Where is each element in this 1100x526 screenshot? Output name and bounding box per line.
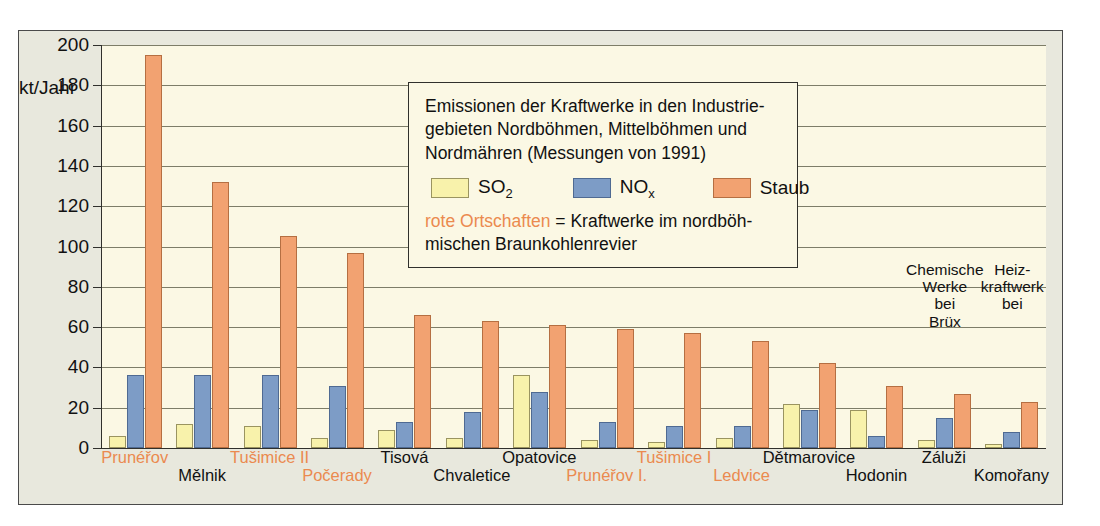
bar-nox — [329, 386, 346, 448]
bar-group — [985, 45, 1039, 448]
bar-nox — [396, 422, 413, 448]
bar-nox — [194, 375, 211, 448]
bar-staub — [145, 55, 162, 448]
bar-so2 — [581, 440, 598, 448]
legend-title-line-2: gebieten Nordböhmen, Mittelböhmen und — [425, 118, 783, 141]
y-tick — [93, 327, 102, 328]
x-axis-label: Tisová — [380, 448, 428, 467]
x-axis-label: Počerady — [302, 466, 372, 485]
x-axis-label: Komořany — [974, 466, 1049, 485]
bar-staub — [482, 321, 499, 448]
legend-title-line-1: Emissionen der Kraftwerke in den Industr… — [425, 95, 783, 118]
legend-note-highlight: rote Ortschaften — [425, 211, 550, 231]
legend-key-so2: SO2 — [431, 176, 513, 201]
chart-figure: kt/Jahr 020406080100120140160180200 Chem… — [18, 30, 1063, 505]
bar-staub — [684, 333, 701, 448]
bar-so2 — [850, 410, 867, 448]
y-tick-label: 140 — [57, 155, 89, 177]
bar-staub — [617, 329, 634, 448]
bar-so2 — [446, 438, 463, 448]
y-tick-label: 180 — [57, 74, 89, 96]
bar-so2 — [109, 436, 126, 448]
y-tick — [93, 408, 102, 409]
y-tick-label: 20 — [68, 397, 89, 419]
y-tick — [93, 287, 102, 288]
bar-nox — [801, 410, 818, 448]
bar-group — [109, 45, 163, 448]
x-axis-label: Hodonin — [846, 466, 907, 485]
legend-title: Emissionen der Kraftwerke in den Industr… — [425, 95, 783, 165]
bar-staub — [1021, 402, 1038, 448]
bar-staub — [752, 341, 769, 448]
bar-nox — [531, 392, 548, 448]
y-tick — [93, 247, 102, 248]
legend-key-staub: Staub — [713, 177, 810, 199]
bar-so2 — [513, 375, 530, 448]
y-tick — [93, 45, 102, 46]
bar-nox — [936, 418, 953, 448]
y-tick-label: 100 — [57, 236, 89, 258]
legend-label-nox: NOx — [620, 176, 655, 201]
bar-nox — [127, 375, 144, 448]
legend-swatch-nox — [573, 178, 611, 198]
y-tick-label: 60 — [68, 316, 89, 338]
bar-nox — [666, 426, 683, 448]
x-axis-label: Prunéřov I. — [566, 466, 647, 485]
bar-nox — [262, 375, 279, 448]
x-axis-label: Mělnik — [178, 466, 226, 485]
legend-label-so2: SO2 — [478, 176, 513, 201]
chart-annotation: Heiz- kraftwerk bei — [981, 261, 1044, 313]
bar-group — [311, 45, 365, 448]
x-axis-label: Ledvice — [713, 466, 770, 485]
chart-annotation: Chemische Werke bei Brüx — [906, 261, 984, 330]
bar-so2 — [378, 430, 395, 448]
legend-swatch-staub — [713, 178, 751, 198]
x-axis-label: Prunéřov — [101, 448, 168, 467]
bar-group — [918, 45, 972, 448]
bar-nox — [868, 436, 885, 448]
legend-label-staub: Staub — [760, 177, 810, 199]
bar-so2 — [244, 426, 261, 448]
legend-note-rest: = Kraftwerke im nordböh- — [550, 211, 752, 231]
legend-swatch-so2 — [431, 178, 469, 198]
bar-so2 — [918, 440, 935, 448]
bar-nox — [599, 422, 616, 448]
y-tick — [93, 166, 102, 167]
bar-staub — [280, 236, 297, 448]
x-axis-labels: PrunéřovMělnikTušimice IIPočeradyTisováC… — [101, 449, 1046, 485]
y-tick-label: 80 — [68, 276, 89, 298]
bar-nox — [1003, 432, 1020, 448]
bar-staub — [414, 315, 431, 448]
legend-key-nox: NOx — [573, 176, 655, 201]
y-tick-label: 120 — [57, 195, 89, 217]
y-tick — [93, 367, 102, 368]
y-tick-label: 0 — [78, 437, 89, 459]
legend-note-line-2: mischen Braunkohlenrevier — [425, 233, 783, 256]
bar-nox — [734, 426, 751, 448]
x-axis-label: Opatovice — [502, 448, 576, 467]
y-tick-label: 40 — [68, 356, 89, 378]
x-axis-label: Dětmarovice — [763, 448, 856, 467]
y-tick-label: 200 — [57, 34, 89, 56]
bar-group — [244, 45, 298, 448]
legend-box: Emissionen der Kraftwerke in den Industr… — [408, 82, 798, 268]
bar-so2 — [176, 424, 193, 448]
bar-staub — [954, 394, 971, 448]
x-axis-label: Záluži — [922, 448, 966, 467]
bar-so2 — [716, 438, 733, 448]
bar-staub — [886, 386, 903, 448]
legend-title-line-3: Nordmähren (Messungen von 1991) — [425, 142, 783, 165]
bar-staub — [549, 325, 566, 448]
bar-group — [850, 45, 904, 448]
bar-staub — [347, 253, 364, 448]
bar-so2 — [311, 438, 328, 448]
bar-staub — [212, 182, 229, 448]
y-tick — [93, 206, 102, 207]
bar-group — [176, 45, 230, 448]
bar-so2 — [985, 444, 1002, 448]
legend-keys: SO2NOxStaub — [425, 176, 783, 201]
y-tick-label: 160 — [57, 115, 89, 137]
bar-so2 — [783, 404, 800, 448]
bar-nox — [464, 412, 481, 448]
x-axis-label: Tušimice I — [637, 448, 712, 467]
